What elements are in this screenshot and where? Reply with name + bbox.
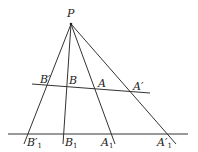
label-P: P xyxy=(66,7,75,20)
ray-P-A1-prime xyxy=(71,24,176,144)
ray-P-A1 xyxy=(71,24,115,144)
projection-diagram: P B′ B A A′ B′1 B1 A1 A′1 xyxy=(0,0,198,152)
point-P xyxy=(70,23,73,26)
label-A1-prime: A′1 xyxy=(156,136,172,150)
label-A1: A1 xyxy=(100,136,113,150)
label-A: A xyxy=(97,77,106,90)
label-B: B xyxy=(68,74,77,87)
label-B1: B1 xyxy=(64,136,78,150)
label-B-prime: B′ xyxy=(39,73,51,86)
label-B1-prime: B′1 xyxy=(26,136,42,150)
label-A-prime: A′ xyxy=(132,80,144,93)
